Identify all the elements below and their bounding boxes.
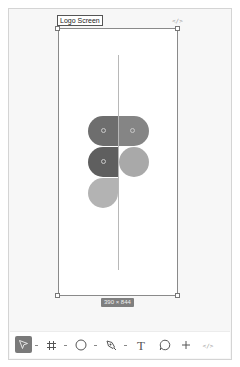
dev-mode-button[interactable]: </> — [200, 338, 216, 352]
frame-tool-button[interactable] — [44, 338, 58, 352]
anchor-point-icon — [101, 159, 106, 164]
plus-icon — [181, 340, 191, 350]
code-icon: </> — [203, 342, 214, 349]
actions-button[interactable] — [179, 338, 193, 352]
cursor-arrow-icon — [18, 339, 29, 350]
pen-tool-menu-caret[interactable] — [124, 345, 127, 346]
resize-handle-bottom-right[interactable] — [175, 293, 180, 298]
frame-tool-menu-caret[interactable] — [64, 345, 67, 346]
ellipse-icon — [75, 339, 87, 351]
frame-name-label[interactable]: Logo Screen — [57, 15, 103, 26]
code-icon[interactable]: </> — [172, 17, 183, 24]
vertical-center-guide — [118, 55, 119, 270]
logo-middle-right-circle[interactable] — [119, 147, 149, 177]
pen-tool-button[interactable] — [104, 338, 118, 352]
anchor-point-icon — [130, 128, 135, 133]
pen-tool-icon — [105, 339, 117, 351]
bottom-toolbar: T </> — [10, 331, 230, 358]
comment-icon — [159, 339, 171, 351]
anchor-point-icon — [101, 128, 106, 133]
resize-handle-top-right[interactable] — [175, 26, 180, 31]
move-tool-button[interactable] — [15, 336, 32, 353]
frame-size-badge: 390 × 844 — [101, 298, 134, 307]
resize-handle-top-left[interactable] — [55, 26, 60, 31]
resize-handle-bottom-left[interactable] — [55, 293, 60, 298]
shape-tool-button[interactable] — [74, 338, 88, 352]
text-tool-button[interactable]: T — [134, 338, 148, 352]
frame-hash-icon — [46, 340, 57, 351]
logo-bottom-left-shape[interactable] — [88, 178, 118, 208]
text-icon: T — [137, 339, 145, 352]
move-tool-menu-caret[interactable] — [35, 345, 38, 346]
comment-tool-button[interactable] — [158, 338, 172, 352]
shape-tool-menu-caret[interactable] — [94, 345, 97, 346]
